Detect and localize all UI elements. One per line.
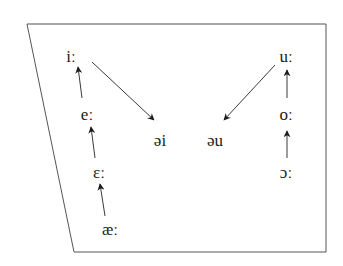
- vowel-e-long: eː: [81, 106, 93, 123]
- arrows: [78, 62, 287, 216]
- diphthong-schwa-i: əi: [154, 132, 166, 149]
- diphthong-schwa-u: əu: [207, 132, 223, 149]
- vowel-o-long: oː: [279, 106, 292, 123]
- vowel-ae-long: æː: [102, 221, 118, 238]
- arrow-eps-to-e: [91, 127, 95, 158]
- arrow-ae-to-eps: [100, 184, 105, 216]
- vowel-open-e-long: ɛː: [93, 164, 105, 181]
- vowel-i-long: iː: [66, 48, 75, 65]
- arrow-i-to-schwa-i: [92, 62, 154, 120]
- arrow-e-to-i: [78, 67, 82, 98]
- vowel-chart-canvas: [0, 0, 343, 266]
- vowel-u-long: uː: [279, 48, 292, 65]
- vowel-open-o-long: ɔː: [280, 164, 292, 181]
- arrow-u-to-schwa-u: [224, 65, 275, 120]
